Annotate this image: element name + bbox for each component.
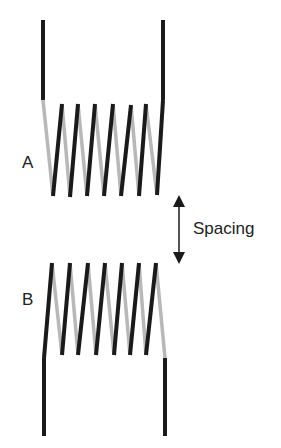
coil-a-front-wire (53, 100, 163, 197)
spacing-label: Spacing (193, 219, 254, 239)
coil-a (43, 20, 163, 197)
coil-b (44, 263, 165, 436)
spacing-arrow (173, 195, 185, 264)
coil-b-label: B (22, 290, 33, 310)
coil-a-label: A (22, 153, 33, 173)
